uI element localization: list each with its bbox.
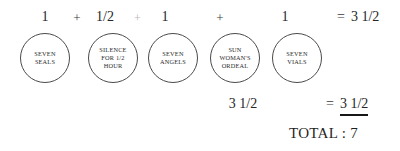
equals-sign-top: = xyxy=(337,9,345,24)
equation-term-1: 1 xyxy=(25,9,65,25)
equation-operator-3: + xyxy=(210,10,230,26)
node-seven-seals[interactable]: SEVEN SEALS xyxy=(20,33,70,83)
node-label-line: SEVEN xyxy=(286,50,307,58)
node-sun-womans-ordeal[interactable]: SUN WOMAN'S ORDEAL xyxy=(210,33,260,83)
node-label-line: ANGELS xyxy=(160,58,186,66)
subtotal-value: 3 1/2 xyxy=(213,95,273,112)
node-label-line: SILENCE xyxy=(99,46,126,54)
equals-sign-bottom: = xyxy=(326,96,334,111)
node-label-line: HOUR xyxy=(104,62,123,70)
node-seven-angels[interactable]: SEVEN ANGELS xyxy=(148,33,198,83)
node-label-line: VIALS xyxy=(287,58,307,66)
grand-total: =3 1/2 xyxy=(326,95,368,116)
node-label-line: ORDEAL xyxy=(222,62,249,70)
node-label-line: SEVEN xyxy=(162,50,183,58)
node-label-line: SUN xyxy=(228,46,241,54)
equation-result-value: 3 1/2 xyxy=(351,9,379,24)
node-silence-for-half-hour[interactable]: SILENCE FOR 1/2 HOUR xyxy=(88,33,138,83)
node-seven-vials[interactable]: SEVEN VIALS xyxy=(272,33,322,83)
grand-total-value: 3 1/2 xyxy=(340,95,368,116)
equation-operator-1: + xyxy=(67,10,87,26)
equation-operator-2: + xyxy=(127,10,147,26)
equation-result: =3 1/2 xyxy=(337,9,379,25)
equation-term-4: 1 xyxy=(265,9,305,25)
equation-term-3: 1 xyxy=(145,9,185,25)
equation-term-2: 1/2 xyxy=(85,9,125,25)
node-label-line: SEVEN xyxy=(34,50,55,58)
node-label-line: WOMAN'S xyxy=(219,54,250,62)
diagram-canvas: 1 + 1/2 + 1 + 1 =3 1/2 SEVEN SEALS SILEN… xyxy=(0,0,400,151)
node-label-line: SEALS xyxy=(35,58,55,66)
node-label-line: FOR 1/2 xyxy=(101,54,124,62)
total-label: TOTAL : 7 xyxy=(289,124,358,142)
